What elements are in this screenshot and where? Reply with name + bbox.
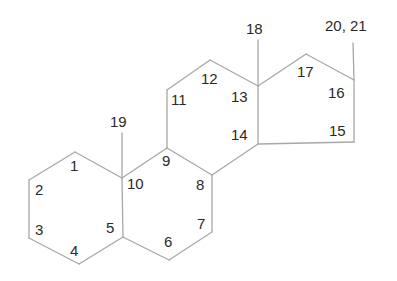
bond-line <box>169 232 212 260</box>
steroid-skeleton-diagram <box>0 0 397 281</box>
carbon-label-1: 1 <box>70 158 78 173</box>
bond-line <box>75 152 122 178</box>
bond-line <box>122 148 167 178</box>
carbon-label-2: 2 <box>35 182 43 197</box>
carbon-label-5: 5 <box>106 220 114 235</box>
carbon-label-10: 10 <box>127 176 144 191</box>
carbon-label-18: 18 <box>246 21 263 36</box>
carbon-label-14: 14 <box>231 127 248 142</box>
carbon-label-7: 7 <box>197 216 205 231</box>
bond-line <box>258 142 354 144</box>
bond-line <box>122 178 123 237</box>
carbon-label-11: 11 <box>171 92 187 107</box>
carbon-label-6: 6 <box>164 234 172 249</box>
bond-line <box>212 144 258 175</box>
bond-line <box>353 43 354 80</box>
carbon-label-19: 19 <box>110 114 127 129</box>
carbon-label-3: 3 <box>35 222 43 237</box>
bond-line <box>123 237 169 260</box>
bond-line <box>167 148 212 175</box>
carbon-label-15: 15 <box>329 123 346 138</box>
carbon-label-16: 16 <box>328 85 345 100</box>
bond-line <box>29 152 75 180</box>
carbon-label-13: 13 <box>231 89 248 104</box>
carbon-label-17: 17 <box>297 64 314 79</box>
carbon-label-9: 9 <box>162 153 170 168</box>
carbon-label-4: 4 <box>70 243 78 258</box>
carbon-label-8: 8 <box>196 177 204 192</box>
carbon-label-12: 12 <box>201 71 218 86</box>
bond-line <box>79 237 123 264</box>
carbon-label-20-21: 20, 21 <box>325 18 367 33</box>
